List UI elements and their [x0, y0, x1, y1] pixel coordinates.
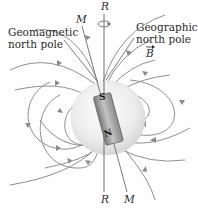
magnetic-axis-label-bottom: M — [124, 194, 135, 205]
geomagnetic-label-line1: Geomagnetic — [8, 26, 78, 38]
magnet-south-label: S — [99, 92, 106, 102]
rotation-axis-label-bottom: R — [101, 194, 109, 205]
geographic-label-line2: north pole — [136, 33, 198, 45]
geographic-north-pole-label: Geographic north pole — [136, 21, 198, 45]
geographic-pole-leader — [106, 38, 134, 80]
rotation-axis-label-top: R — [101, 1, 109, 12]
geomagnetic-north-pole-label: Geomagnetic north pole — [8, 26, 78, 50]
magnetic-axis-label-top: M — [76, 14, 87, 25]
geographic-label-line1: Geographic — [136, 21, 198, 33]
vector-arrow-icon — [146, 45, 155, 49]
field-vector-label: B — [146, 48, 154, 59]
geomagnetic-label-line2: north pole — [8, 38, 78, 50]
